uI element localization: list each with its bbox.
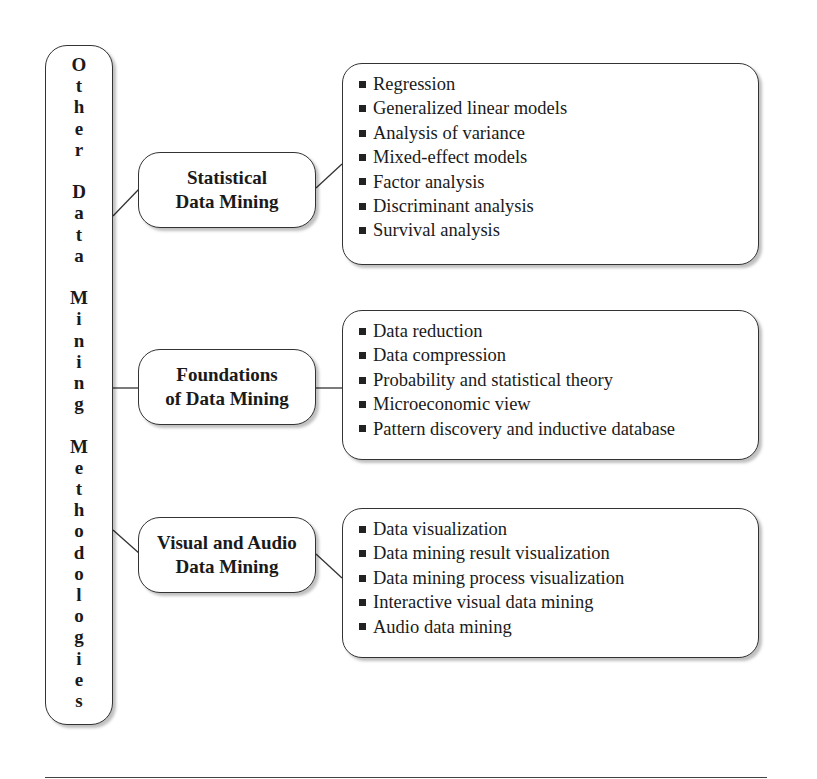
list-item: Probability and statistical theory	[359, 368, 758, 392]
list-item-text: Audio data mining	[373, 615, 512, 639]
title-letter: D	[46, 181, 112, 202]
square-bullet-icon	[359, 203, 366, 210]
method-list-visual-audio: Data visualizationData mining result vis…	[342, 508, 759, 658]
square-bullet-icon	[359, 81, 366, 88]
category-title-line: of Data Mining	[165, 387, 289, 411]
title-letter: r	[46, 139, 112, 160]
list-item: Data reduction	[359, 319, 758, 343]
square-bullet-icon	[359, 550, 366, 557]
title-letter: o	[46, 605, 112, 626]
connector-root-cat3	[113, 530, 140, 554]
list-item-text: Data compression	[373, 343, 506, 367]
list-item: Audio data mining	[359, 615, 758, 639]
title-gap	[46, 266, 112, 287]
title-letter: d	[46, 542, 112, 563]
square-bullet-icon	[359, 227, 366, 234]
method-list-statistical: RegressionGeneralized linear modelsAnaly…	[342, 63, 759, 265]
root-node-vertical-title: Other Data Mining Methodologies	[46, 54, 112, 711]
category-node-visual-and-audio-data-mining: Visual and Audio Data Mining	[138, 517, 316, 593]
list-item: Survival analysis	[359, 218, 758, 242]
title-letter: n	[46, 372, 112, 393]
list-item-text: Regression	[373, 72, 455, 96]
list-item-text: Generalized linear models	[373, 96, 567, 120]
list-item: Data visualization	[359, 517, 758, 541]
title-letter: a	[46, 245, 112, 266]
list-item: Regression	[359, 72, 758, 96]
square-bullet-icon	[359, 575, 366, 582]
list-item-text: Analysis of variance	[373, 121, 525, 145]
root-node-other-data-mining-methodologies: Other Data Mining Methodologies	[45, 45, 113, 725]
list-item: Interactive visual data mining	[359, 590, 758, 614]
title-letter: M	[46, 287, 112, 308]
title-letter: i	[46, 648, 112, 669]
list-item-text: Data mining result visualization	[373, 541, 610, 565]
title-letter: g	[46, 626, 112, 647]
list-item: Data mining result visualization	[359, 541, 758, 565]
list-item-text: Data reduction	[373, 319, 482, 343]
title-letter: h	[46, 499, 112, 520]
title-letter: g	[46, 393, 112, 414]
list-item-text: Microeconomic view	[373, 392, 531, 416]
category-title-line: Foundations	[165, 363, 289, 387]
category-title-line: Statistical	[176, 166, 279, 190]
square-bullet-icon	[359, 105, 366, 112]
square-bullet-icon	[359, 178, 366, 185]
title-letter: o	[46, 563, 112, 584]
title-letter: l	[46, 584, 112, 605]
category-node-foundations-of-data-mining: Foundations of Data Mining	[138, 349, 316, 425]
category-title-line: Data Mining	[157, 555, 297, 579]
title-letter: i	[46, 308, 112, 329]
title-letter: t	[46, 478, 112, 499]
square-bullet-icon	[359, 526, 366, 533]
list-item: Factor analysis	[359, 170, 758, 194]
title-letter: e	[46, 457, 112, 478]
title-letter: O	[46, 54, 112, 75]
title-letter: e	[46, 669, 112, 690]
title-gap	[46, 414, 112, 435]
list-item-text: Data visualization	[373, 517, 507, 541]
list-item-text: Factor analysis	[373, 170, 485, 194]
connector-cat3-list3	[316, 554, 342, 578]
title-letter: e	[46, 118, 112, 139]
list-item-text: Probability and statistical theory	[373, 368, 613, 392]
title-letter: i	[46, 351, 112, 372]
square-bullet-icon	[359, 623, 366, 630]
list-item-text: Data mining process visualization	[373, 566, 624, 590]
title-letter: t	[46, 75, 112, 96]
square-bullet-icon	[359, 130, 366, 137]
title-letter: a	[46, 202, 112, 223]
category-title-line: Visual and Audio	[157, 531, 297, 555]
footer-divider	[45, 777, 767, 778]
list-item: Discriminant analysis	[359, 194, 758, 218]
title-letter: s	[46, 690, 112, 711]
title-letter: o	[46, 520, 112, 541]
square-bullet-icon	[359, 352, 366, 359]
category-node-statistical-data-mining: Statistical Data Mining	[138, 152, 316, 228]
square-bullet-icon	[359, 328, 366, 335]
category-title-line: Data Mining	[176, 190, 279, 214]
title-letter: h	[46, 96, 112, 117]
method-list-foundations: Data reductionData compressionProbabilit…	[342, 310, 759, 460]
title-letter: n	[46, 330, 112, 351]
list-item: Data mining process visualization	[359, 566, 758, 590]
list-item: Pattern discovery and inductive database	[359, 417, 758, 441]
list-item: Data compression	[359, 343, 758, 367]
title-gap	[46, 160, 112, 181]
square-bullet-icon	[359, 599, 366, 606]
title-letter: t	[46, 224, 112, 245]
list-item: Generalized linear models	[359, 96, 758, 120]
connector-root-cat1	[113, 188, 140, 216]
square-bullet-icon	[359, 401, 366, 408]
square-bullet-icon	[359, 425, 366, 432]
list-item-text: Survival analysis	[373, 218, 500, 242]
title-letter: M	[46, 436, 112, 457]
square-bullet-icon	[359, 154, 366, 161]
list-item-text: Discriminant analysis	[373, 194, 534, 218]
connector-cat1-list1	[316, 164, 342, 188]
list-item-text: Pattern discovery and inductive database	[373, 417, 675, 441]
list-item: Microeconomic view	[359, 392, 758, 416]
list-item: Analysis of variance	[359, 121, 758, 145]
list-item-text: Mixed-effect models	[373, 145, 527, 169]
list-item: Mixed-effect models	[359, 145, 758, 169]
square-bullet-icon	[359, 377, 366, 384]
